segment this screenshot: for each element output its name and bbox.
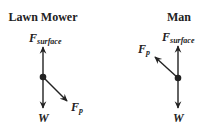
man-diagram: Man Fsurface W Fp [137,10,195,125]
lawn-mower-point-mass [40,74,47,81]
man-push-force-label: Fp [137,42,150,57]
man-weight-label: W [173,111,185,125]
lawn-mower-push-force-label: Fp [70,100,83,115]
lawn-mower-title: Lawn Mower [9,10,79,24]
lawn-mower-push-force-arrow [43,77,67,101]
man-surface-force-label: Fsurface [161,30,195,45]
lawn-mower-weight-label: W [38,111,50,125]
man-push-force-arrow [155,57,178,78]
man-title: Man [167,10,191,24]
free-body-diagrams: Lawn Mower Fsurface W Fp Man Fsurface W … [0,0,206,130]
lawn-mower-diagram: Lawn Mower Fsurface W Fp [9,10,84,125]
lawn-mower-surface-force-label: Fsurface [28,31,62,46]
man-point-mass [175,75,182,82]
